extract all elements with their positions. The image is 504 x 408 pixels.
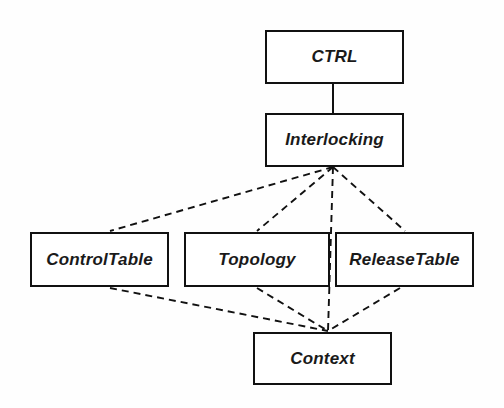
node-releasetable-label: ReleaseTable	[349, 250, 459, 270]
diagram-canvas: CTRL Interlocking ControlTable Topology …	[0, 0, 504, 408]
edge-releasetable-context	[328, 288, 400, 331]
node-context-label: Context	[290, 349, 355, 369]
edge-interlocking-controltable	[110, 167, 333, 231]
node-controltable-label: ControlTable	[46, 250, 153, 270]
edge-interlocking-releasetable	[333, 167, 405, 231]
edge-controltable-context	[110, 288, 328, 331]
node-ctrl[interactable]: CTRL	[265, 30, 404, 84]
node-topology-label: Topology	[218, 250, 295, 270]
node-interlocking-label: Interlocking	[285, 130, 384, 150]
edge-interlocking-topology	[257, 167, 333, 231]
node-releasetable[interactable]: ReleaseTable	[335, 232, 474, 287]
node-controltable[interactable]: ControlTable	[30, 232, 169, 287]
node-interlocking[interactable]: Interlocking	[265, 113, 404, 167]
node-topology[interactable]: Topology	[184, 232, 330, 287]
node-context[interactable]: Context	[253, 332, 392, 385]
edge-layer	[0, 0, 504, 408]
node-ctrl-label: CTRL	[311, 47, 357, 67]
